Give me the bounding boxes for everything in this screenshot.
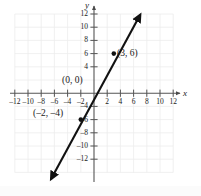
- x-tick-label-10: 10: [156, 98, 164, 106]
- bottom-edge-band: [0, 186, 201, 196]
- x-tick-label-minus10: –10: [22, 98, 33, 106]
- axes: [10, 6, 180, 182]
- x-tick-label-minus4: –4: [64, 98, 72, 106]
- x-tick-label-minus12: –12: [9, 98, 20, 106]
- y-tick-label-minus12: –12: [77, 155, 88, 163]
- y-tick-label-minus8: –8: [81, 129, 89, 137]
- data-point-3-6: [112, 51, 117, 56]
- point-label-minus2-minus4: (–2, –4): [33, 109, 63, 119]
- x-tick-label-8: 8: [145, 98, 149, 106]
- y-tick-label-6: 6: [84, 50, 88, 58]
- x-tick-label-minus6: –6: [51, 98, 59, 106]
- y-axis-label: y: [85, 1, 89, 10]
- x-tick-label-12: 12: [169, 98, 177, 106]
- coordinate-plane-figure: –12 –10 –8 –6 –4 –2 2 4 6 8 10 12 12 10 …: [0, 0, 201, 196]
- x-axis-label: x: [183, 89, 187, 98]
- x-tick-label-4: 4: [119, 98, 123, 106]
- y-tick-label-12: 12: [81, 10, 89, 18]
- x-tick-label-minus8: –8: [37, 98, 45, 106]
- y-tick-label-4: 4: [84, 63, 88, 71]
- point-label-0-0: (0, 0): [62, 76, 83, 86]
- y-tick-label-10: 10: [81, 23, 89, 31]
- y-tick-label-minus10: –10: [77, 142, 88, 150]
- y-tick-label-minus6: –6: [81, 116, 89, 124]
- point-label-3-6: (3, 6): [117, 49, 138, 59]
- y-tick-label-8: 8: [84, 37, 88, 45]
- x-tick-label-6: 6: [132, 98, 136, 106]
- x-tick-label-2: 2: [105, 98, 109, 106]
- y-tick-label-minus4: –4: [81, 103, 89, 111]
